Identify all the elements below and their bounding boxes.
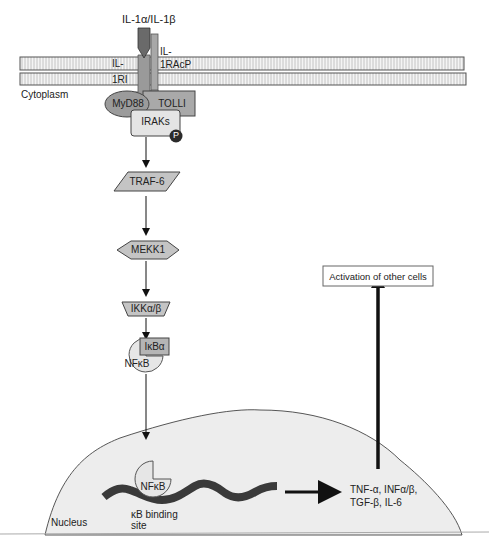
receptor-2-label-line1: IL- [160, 46, 172, 57]
ikba-label: IκBα [140, 341, 169, 352]
cytoplasm-label: Cytoplasm [21, 89, 68, 100]
phospho-label: P [170, 130, 182, 140]
nfkb-nucleus-label: NFκB [136, 481, 170, 492]
products-label-line2: TGF-β, IL-6 [350, 497, 402, 508]
receptor-2-label-line2: 1RAcP [160, 59, 191, 70]
nucleus-envelope [45, 410, 462, 535]
binding-site-label-line2: site [131, 520, 147, 531]
receptor-1-label-line1: IL- [112, 58, 124, 69]
tolli-label: TOLLI [150, 98, 194, 109]
products-label-line1: TNF-α, INFα/β, [350, 484, 417, 495]
ligand-label: IL-1α/IL-1β [122, 14, 176, 25]
myd88-label: MyD88 [108, 98, 148, 109]
traf6-label: TRAF-6 [120, 176, 174, 187]
iraks-label: IRAKs [131, 116, 180, 127]
receptor-complex [135, 28, 158, 99]
cell-membrane [20, 57, 466, 85]
nucleus-label: Nucleus [51, 517, 87, 528]
outcome-label: Activation of other cells [323, 271, 433, 282]
ligand-il1 [138, 28, 150, 58]
receptor-1-label-line2: 1RI [112, 74, 128, 85]
binding-site-label-line1: κB binding [131, 509, 178, 520]
ikk-label: IKKα/β [124, 303, 168, 314]
mekk1-label: MEKK1 [122, 244, 174, 255]
nfkb-cytoplasm-label: NFκB [122, 358, 152, 369]
